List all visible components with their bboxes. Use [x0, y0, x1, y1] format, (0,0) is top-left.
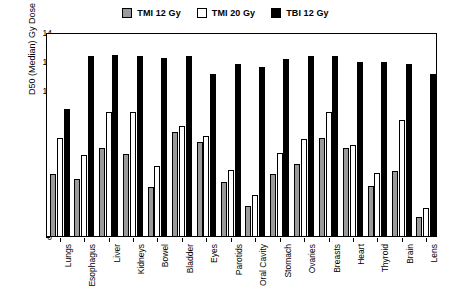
x-axis-label: Bladder [186, 244, 195, 273]
x-axis-label: Stomach [284, 244, 293, 278]
bar [235, 64, 241, 237]
bar-group [123, 33, 143, 237]
legend-item-tbi-12-gy: TBI 12 Gy [271, 8, 328, 18]
bar [186, 56, 192, 237]
bar [154, 166, 160, 237]
bar-group [343, 33, 363, 237]
bar-group [319, 33, 339, 237]
bar [368, 186, 374, 237]
x-tick-mark [377, 238, 378, 242]
bar [319, 138, 325, 237]
bar [130, 112, 136, 237]
bar [430, 74, 436, 237]
x-tick-mark [304, 238, 305, 242]
legend-swatch-tmi-12-gy [122, 8, 132, 18]
legend-label-tmi-20-gy: TMI 20 Gy [212, 8, 255, 18]
x-tick-mark [182, 238, 183, 242]
x-axis-label: Bowel [161, 244, 170, 267]
x-axis-label: Breasts [333, 244, 342, 273]
bar-group [99, 33, 119, 237]
x-tick-mark [255, 238, 256, 242]
bar [392, 171, 398, 237]
x-axis-label: Liver [113, 244, 122, 262]
bar-group [416, 33, 436, 237]
bar-group [148, 33, 168, 237]
x-tick-mark [402, 238, 403, 242]
bar-chart: TMI 12 Gy TMI 20 Gy TBI 12 Gy D50 (Media… [0, 0, 451, 301]
bar [112, 55, 118, 237]
legend-item-tmi-20-gy: TMI 20 Gy [197, 8, 255, 18]
bar [221, 182, 227, 237]
bar-group [368, 33, 388, 237]
legend-swatch-tbi-12-gy [271, 8, 281, 18]
bar [172, 132, 178, 237]
x-tick-mark [84, 238, 85, 242]
bar [81, 155, 87, 237]
bar-group [294, 33, 314, 237]
bar [88, 56, 94, 237]
bar [137, 56, 143, 237]
x-axis-label: Kidneys [137, 244, 146, 274]
bar [148, 187, 154, 237]
bar [50, 174, 56, 237]
x-axis-label: Brain [406, 244, 415, 264]
bar [381, 62, 387, 237]
bar [228, 170, 234, 237]
bar [277, 153, 283, 238]
bar [350, 145, 356, 237]
x-axis-label: Heart [357, 244, 366, 265]
x-tick-mark [231, 238, 232, 242]
bar [326, 112, 332, 237]
bar [343, 148, 349, 237]
bar [259, 67, 265, 237]
x-axis-label: Lens [430, 244, 439, 262]
bar-group [74, 33, 94, 237]
bar [179, 126, 185, 237]
bar [374, 173, 380, 237]
x-axis-labels: LungsEsophagusLiverKidneysBowelBladderEy… [46, 238, 437, 300]
bar-group [392, 33, 412, 237]
bar [423, 208, 429, 237]
legend-swatch-tmi-20-gy [197, 8, 207, 18]
bar-group [172, 33, 192, 237]
bar [283, 59, 289, 237]
bar [74, 179, 80, 237]
bar [197, 142, 203, 237]
bar [245, 206, 251, 237]
x-tick-mark [426, 238, 427, 242]
bar [57, 138, 63, 237]
x-tick-mark [329, 238, 330, 242]
bars-layer [46, 33, 437, 237]
bar [210, 74, 216, 237]
bar [106, 112, 112, 237]
legend-label-tmi-12-gy: TMI 12 Gy [137, 8, 180, 18]
x-tick-mark [206, 238, 207, 242]
bar [123, 154, 129, 237]
legend-label-tbi-12-gy: TBI 12 Gy [286, 8, 328, 18]
legend-item-tmi-12-gy: TMI 12 Gy [122, 8, 180, 18]
x-axis-label: Eyes [210, 244, 219, 263]
bar [161, 58, 167, 237]
bar [252, 195, 258, 237]
bar-group [50, 33, 70, 237]
x-axis-label: Parotids [235, 244, 244, 275]
x-axis-label: Ovaries [308, 244, 317, 273]
bar [332, 56, 338, 237]
bar [406, 64, 412, 237]
x-tick-mark [353, 238, 354, 242]
bar [99, 148, 105, 237]
bar [270, 174, 276, 237]
bar [294, 164, 300, 237]
x-tick-mark [60, 238, 61, 242]
x-axis-label: Oral Cavity [259, 244, 268, 286]
bar-group [197, 33, 217, 237]
x-tick-mark [133, 238, 134, 242]
bar-group [245, 33, 265, 237]
x-tick-mark [109, 238, 110, 242]
chart-legend: TMI 12 Gy TMI 20 Gy TBI 12 Gy [0, 8, 451, 18]
x-axis-label: Thyroid [381, 244, 390, 272]
bar [357, 62, 363, 237]
bar [301, 139, 307, 237]
bar-group [270, 33, 290, 237]
x-tick-mark [157, 238, 158, 242]
